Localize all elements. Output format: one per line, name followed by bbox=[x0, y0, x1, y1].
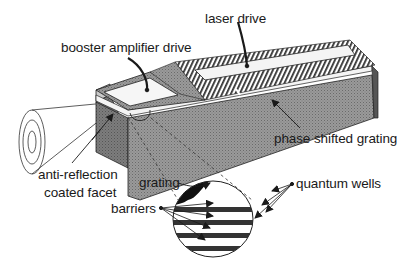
label-booster-amplifier-drive: booster amplifier drive bbox=[61, 41, 192, 55]
label-anti-reflection: anti-reflection bbox=[38, 168, 118, 182]
label-barriers: barriers bbox=[111, 202, 156, 216]
label-coated-facet: coated facet bbox=[44, 186, 116, 200]
label-laser-drive: laser drive bbox=[205, 12, 266, 26]
cross-section-zoom bbox=[170, 176, 260, 257]
label-quantum-wells: quantum wells bbox=[296, 177, 381, 191]
diagram-graphic bbox=[0, 0, 410, 260]
laser-diagram: laser drive booster amplifier drive phas… bbox=[0, 0, 410, 260]
label-grating: grating bbox=[139, 176, 180, 190]
label-phase-shifted-grating: phase shifted grating bbox=[274, 132, 397, 146]
